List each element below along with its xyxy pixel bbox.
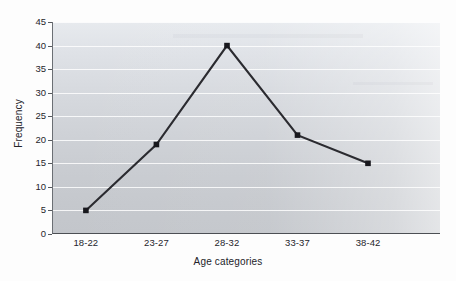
y-tick-label-10: 10	[0, 182, 46, 192]
gridline-20	[53, 140, 440, 141]
x-tick-label-33-37: 33-37	[267, 238, 327, 248]
gridline-40	[53, 46, 440, 47]
y-tick-mark-30	[48, 93, 52, 94]
scan-artifact	[353, 82, 433, 85]
y-tick-mark-10	[48, 187, 52, 188]
y-tick-label-35: 35	[0, 64, 46, 74]
gridline-15	[53, 163, 440, 164]
y-tick-mark-25	[48, 116, 52, 117]
x-tick-label-28-32: 28-32	[197, 238, 257, 248]
x-axis-title: Age categories	[0, 256, 456, 267]
y-tick-mark-40	[48, 46, 52, 47]
scan-artifact	[173, 34, 363, 38]
y-tick-mark-20	[48, 140, 52, 141]
x-tick-label-18-22: 18-22	[56, 238, 116, 248]
y-tick-mark-45	[48, 22, 52, 23]
y-tick-mark-35	[48, 69, 52, 70]
y-tick-label-40: 40	[0, 41, 46, 51]
plot-background-sheen	[53, 22, 440, 233]
gridline-45	[53, 22, 440, 23]
figure-caption-ghost	[16, 271, 306, 280]
y-tick-label-5: 5	[0, 205, 46, 215]
y-tick-label-0: 0	[0, 229, 46, 239]
gridline-10	[53, 187, 440, 188]
gridline-30	[53, 93, 440, 94]
plot-area	[52, 22, 440, 234]
gridline-5	[53, 210, 440, 211]
gridline-35	[53, 69, 440, 70]
y-tick-label-45: 45	[0, 17, 46, 27]
gridline-25	[53, 116, 440, 117]
x-tick-label-23-27: 23-27	[126, 238, 186, 248]
x-tick-label-38-42: 38-42	[338, 238, 398, 248]
figure-canvas: 45 40 35 30 25 20 15 10 5 0 18-22 23-27 …	[0, 0, 456, 281]
y-tick-mark-15	[48, 163, 52, 164]
y-tick-mark-5	[48, 210, 52, 211]
y-axis-title: Frequency	[13, 78, 24, 170]
y-tick-mark-0	[48, 234, 52, 235]
